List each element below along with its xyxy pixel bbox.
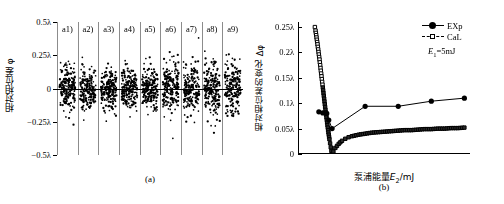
panel-a-column-label-4: a4) (119, 24, 139, 34)
legend-item-cal: CaL (422, 31, 502, 42)
panel-a-column-label-6: a6) (161, 24, 181, 34)
panel-a-caption: (a) (57, 174, 243, 184)
panel-b-annotation: E1=5mJ (428, 46, 455, 58)
panel-a-ytick-label: 0 (11, 84, 51, 94)
panel-a: 相对相位差 φ 0.5λ0.25λ0−0.25λ−0.5λ a1)a2)a3)a… (0, 0, 252, 204)
panel-a-column-label-8: a8) (202, 24, 222, 34)
panel-a-plot-area: a1)a2)a3)a4)a5)a6)a7)a8)a9) (57, 22, 243, 155)
panel-a-column-label-3: a3) (99, 24, 119, 34)
panel-a-ytick-label: −0.25λ (11, 117, 51, 127)
legend-label-exp: EXp (447, 21, 463, 31)
panel-b-ytick-label: 0.15λ (256, 73, 294, 83)
panel-b: 相对相位差的变化 Δφ 00.05λ0.1λ0.15λ0.2λ0.25λ 泵浦能… (252, 0, 504, 204)
panel-b-caption: (b) (298, 182, 470, 192)
panel-a-column-label-9: a9) (223, 24, 243, 34)
panel-a-column-label-2: a2) (78, 24, 98, 34)
panel-a-column-label-7: a7) (181, 24, 201, 34)
panel-b-ytickmark (298, 52, 302, 53)
legend-marker-filled-circle (422, 20, 444, 31)
figure-root: 相对相位差 φ 0.5λ0.25λ0−0.25λ−0.5λ a1)a2)a3)a… (0, 0, 504, 204)
panel-a-ytick-label: 0.5λ (11, 17, 51, 27)
panel-b-ytick-label: 0.2λ (256, 47, 294, 57)
panel-a-ytick-label: 0.25λ (11, 50, 51, 60)
panel-b-ytickmark (298, 27, 302, 28)
panel-a-column-label-5: a5) (140, 24, 160, 34)
panel-a-column-label-1: a1) (57, 24, 77, 34)
panel-b-legend: EXp CaL (422, 20, 502, 42)
panel-a-tickmark (53, 155, 57, 156)
legend-marker-open-square (422, 31, 444, 42)
panel-b-ytickmark (298, 78, 302, 79)
panel-b-xtickmark (298, 150, 299, 154)
panel-a-scatter-canvas (57, 22, 243, 155)
panel-b-ytick-label: 0 (256, 149, 294, 159)
panel-a-y-ticks: 0.5λ0.25λ0−0.25λ−0.5λ (0, 0, 55, 204)
panel-a-ytick-label: −0.5λ (11, 150, 51, 160)
panel-b-ytick-label: 0.25λ (256, 22, 294, 32)
panel-b-ytickmark (298, 154, 302, 155)
legend-item-exp: EXp (422, 20, 502, 31)
panel-b-ytick-label: 0.1λ (256, 98, 294, 108)
legend-label-cal: CaL (447, 32, 462, 42)
panel-b-x-axis-label-text: 泵浦能量E2/mJ (354, 172, 414, 182)
panel-b-ytickmark (298, 129, 302, 130)
panel-b-ytickmark (298, 103, 302, 104)
panel-b-ytick-label: 0.05λ (256, 124, 294, 134)
